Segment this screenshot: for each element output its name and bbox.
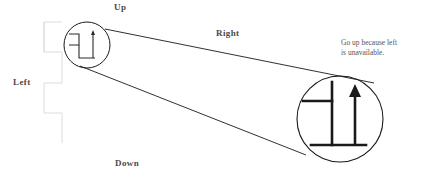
magnifier-zoom-circle-icon: [297, 76, 383, 162]
faint-left-bracket: [44, 22, 62, 143]
arrow-up-icon: [91, 30, 95, 58]
magnification-cone: [80, 29, 374, 155]
annotation-line-1: Go up because left: [341, 38, 397, 48]
magnified-path-diagram: Up Right Left Down Go up because left is…: [0, 0, 426, 177]
diagram-canvas: [0, 0, 426, 177]
direction-label-up: Up: [114, 2, 126, 12]
annotation-line-2: is unavailable.: [341, 48, 384, 58]
direction-label-down: Down: [115, 158, 139, 168]
arrow-up-icon: [349, 84, 361, 145]
direction-label-right: Right: [216, 28, 240, 38]
direction-label-left: Left: [13, 77, 31, 87]
magnifier-source-circle-icon: [64, 22, 110, 68]
